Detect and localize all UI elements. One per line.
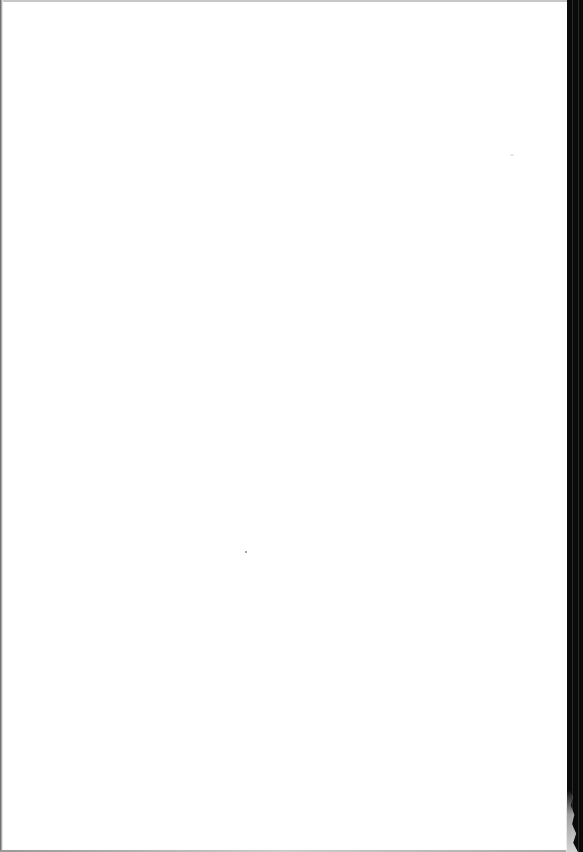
scan-border-right [567,0,583,852]
page-top-edge [0,0,568,2]
scan-border-stripe [578,0,579,852]
page-left-edge [0,0,3,852]
scan-artifact-speck [245,551,247,553]
scan-artifact-mark [510,154,514,156]
blank-page [0,0,568,852]
scan-border-stripe [572,0,573,852]
